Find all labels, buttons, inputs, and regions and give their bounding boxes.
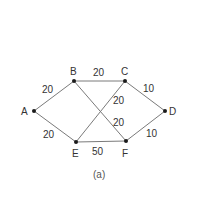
weight-c-d: 10 [143,83,155,94]
edge-e-c [76,81,125,142]
weight-b-f: 20 [113,117,125,128]
weight-e-c: 20 [113,95,125,106]
node-c [123,79,127,83]
weight-b-c: 20 [93,67,105,78]
node-label-f: F [122,148,128,159]
weight-e-f: 50 [92,146,104,157]
node-label-d: D [169,106,176,117]
node-f [124,139,128,143]
node-label-b: B [70,66,77,77]
edge-a-b [34,81,74,111]
edge-a-e [34,111,76,142]
weight-a-e: 20 [43,129,55,140]
graph-diagram: A B C D E F 20 20 20 20 20 50 10 10 (a) [0,0,208,203]
node-label-a: A [21,106,28,117]
node-label-c: C [121,66,128,77]
node-e [74,140,78,144]
weight-a-b: 20 [42,84,54,95]
figure-caption: (a) [93,169,105,180]
node-a [32,109,36,113]
node-label-e: E [72,148,79,159]
node-d [163,109,167,113]
weight-f-d: 10 [146,128,158,139]
node-b [72,79,76,83]
edge-e-f [76,141,126,142]
